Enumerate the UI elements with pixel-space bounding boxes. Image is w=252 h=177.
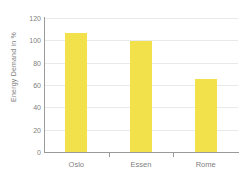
y-tick-label-120: 120 (29, 15, 41, 22)
y-tick-label-60: 60 (33, 82, 41, 89)
plot-area (44, 18, 238, 152)
bar-rome (195, 79, 217, 152)
x-category-label-rome: Rome (196, 160, 216, 169)
y-tick-label-80: 80 (33, 59, 41, 66)
x-axis-tick-1 (109, 153, 110, 157)
y-axis-line (44, 17, 45, 153)
y-axis-title-text: Energy Demand in % (10, 32, 17, 102)
y-tick-label-0: 0 (37, 149, 41, 156)
x-axis-tick-2 (173, 153, 174, 157)
y-tick-label-100: 100 (29, 37, 41, 44)
bar-oslo (65, 33, 87, 152)
x-category-label-essen: Essen (131, 160, 152, 169)
bar-chart: Energy Demand in % 020406080100120 OsloE… (0, 0, 252, 177)
x-category-label-oslo: Oslo (69, 160, 84, 169)
y-tick-label-20: 20 (33, 126, 41, 133)
bar-essen (130, 41, 152, 152)
gridline-120 (44, 18, 238, 19)
x-axis-line (44, 152, 239, 153)
y-tick-label-40: 40 (33, 104, 41, 111)
